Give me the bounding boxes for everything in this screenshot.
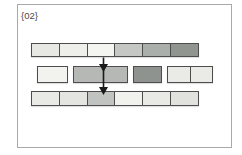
top-cell-5 (142, 44, 170, 56)
middle-strip-group-4 (167, 66, 213, 83)
top-strip (31, 43, 199, 57)
mid-group4-cell-1 (168, 67, 190, 82)
bottom-cell-2 (59, 92, 87, 105)
mid-group1-cell-1 (38, 67, 67, 82)
middle-strip-group-2 (73, 66, 128, 83)
mid-group4-cell-2 (190, 67, 213, 82)
bottom-cell-6 (170, 92, 198, 105)
bottom-cell-5 (142, 92, 170, 105)
mid-group3-cell-1 (134, 67, 161, 82)
bottom-cell-3 (87, 92, 115, 105)
top-cell-6 (170, 44, 198, 56)
bottom-cell-4 (114, 92, 142, 105)
top-cell-1 (32, 44, 59, 56)
diagram-stage: {02} (0, 0, 242, 155)
top-cell-3 (87, 44, 115, 56)
top-cell-4 (114, 44, 142, 56)
mid-group2-cell-1 (74, 67, 127, 82)
bottom-strip (31, 91, 199, 106)
middle-strip-group-3 (133, 66, 162, 83)
bottom-cell-1 (32, 92, 59, 105)
top-cell-2 (59, 44, 87, 56)
figure-label: {02} (21, 10, 38, 22)
middle-strip-group-1 (37, 66, 68, 83)
